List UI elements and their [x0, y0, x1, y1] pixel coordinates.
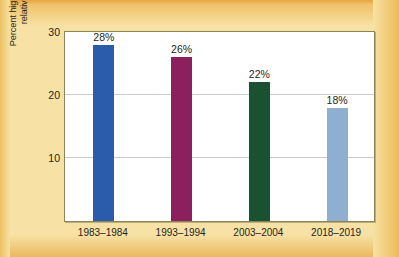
bar: 26%	[171, 30, 192, 221]
bar-value-label: 28%	[93, 31, 114, 43]
y-axis-title: Percent higher wages of private union wo…	[2, 0, 36, 52]
y-tick-label-30: 30	[40, 26, 60, 38]
bar: 28%	[93, 30, 114, 221]
bar: 22%	[249, 30, 270, 221]
bar-rect	[93, 45, 114, 221]
chart-figure: Percent higher wages of private union wo…	[0, 0, 399, 257]
bar-rect	[171, 57, 192, 221]
plot-area: 28%26%22%18%	[64, 31, 375, 222]
y-tick-label-10: 10	[40, 152, 60, 164]
y-tick-label-20: 20	[40, 89, 60, 101]
y-axis-tick-labels: 102030	[36, 0, 60, 257]
bar-value-label: 22%	[249, 68, 270, 80]
bar-rect	[327, 108, 348, 221]
background-gradient-right	[373, 0, 399, 257]
x-axis-tick-labels: 1983–19841993–19942003–20042018–2019	[64, 227, 375, 243]
bar: 18%	[327, 30, 348, 221]
x-tick-label: 2018–2019	[311, 227, 361, 238]
bar-value-label: 26%	[171, 43, 192, 55]
bar-rect	[249, 82, 270, 221]
bar-value-label: 18%	[327, 94, 348, 106]
x-tick-label: 1983–1984	[78, 227, 128, 238]
x-tick-label: 2003–2004	[233, 227, 283, 238]
x-tick-label: 1993–1994	[156, 227, 206, 238]
